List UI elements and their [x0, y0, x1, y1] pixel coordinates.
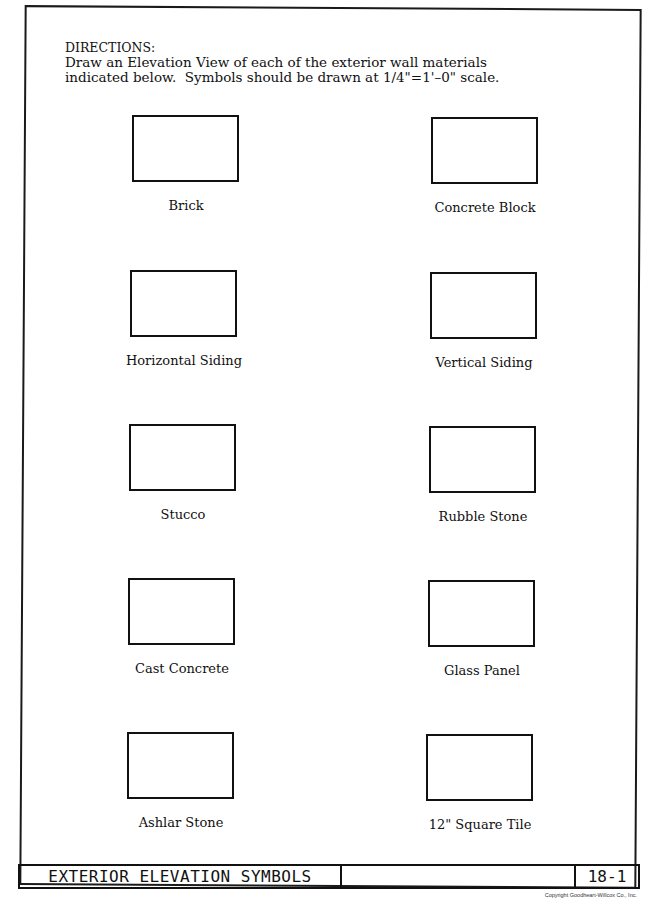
drawing-box-vertical-siding[interactable] — [430, 272, 537, 339]
symbol-label: Stucco — [83, 507, 283, 522]
drawing-box-rubble-stone[interactable] — [429, 426, 536, 493]
symbol-cell-cast-concrete: Cast Concrete — [82, 578, 282, 688]
drawing-box-glass-panel[interactable] — [428, 580, 535, 647]
symbol-label: 12" Square Tile — [380, 817, 580, 832]
symbol-cell-glass-panel: Glass Panel — [382, 580, 582, 690]
title-block: EXTERIOR ELEVATION SYMBOLS 18-1 — [18, 864, 640, 889]
directions-line-1: Draw an Elevation View of each of the ex… — [65, 55, 499, 70]
symbol-cell-vertical-siding: Vertical Siding — [384, 272, 584, 382]
directions-block: DIRECTIONS: Draw an Elevation View of ea… — [65, 40, 499, 85]
symbol-label: Ashlar Stone — [81, 815, 281, 830]
symbol-label: Horizontal Siding — [84, 353, 284, 368]
symbol-cell-square-tile: 12" Square Tile — [380, 734, 580, 844]
drawing-box-stucco[interactable] — [129, 424, 236, 491]
title-block-blank-field — [342, 866, 576, 887]
symbol-label: Glass Panel — [382, 663, 582, 678]
symbol-cell-brick: Brick — [86, 115, 286, 225]
directions-line-2: indicated below. Symbols should be drawn… — [65, 70, 499, 85]
symbol-label: Rubble Stone — [383, 509, 583, 524]
copyright-notice: Copyright Goodheart-Willcox Co., Inc. — [545, 892, 637, 898]
drawing-box-ashlar-stone[interactable] — [127, 732, 234, 799]
symbol-cell-stucco: Stucco — [83, 424, 283, 534]
drawing-box-concrete-block[interactable] — [431, 117, 538, 184]
symbol-label: Brick — [86, 198, 286, 213]
drawing-box-square-tile[interactable] — [426, 734, 533, 801]
symbol-label: Concrete Block — [385, 200, 585, 215]
drawing-box-horizontal-siding[interactable] — [130, 270, 237, 337]
drawing-box-brick[interactable] — [132, 115, 239, 182]
sheet-number: 18-1 — [576, 866, 638, 887]
sheet-title: EXTERIOR ELEVATION SYMBOLS — [20, 866, 342, 887]
symbol-cell-concrete-block: Concrete Block — [385, 117, 585, 227]
symbol-cell-ashlar-stone: Ashlar Stone — [81, 732, 281, 842]
drawing-box-cast-concrete[interactable] — [128, 578, 235, 645]
symbol-cell-rubble-stone: Rubble Stone — [383, 426, 583, 536]
directions-title: DIRECTIONS: — [65, 40, 499, 55]
symbol-label: Cast Concrete — [82, 661, 282, 676]
symbol-label: Vertical Siding — [384, 355, 584, 370]
symbol-cell-horizontal-siding: Horizontal Siding — [84, 270, 284, 380]
